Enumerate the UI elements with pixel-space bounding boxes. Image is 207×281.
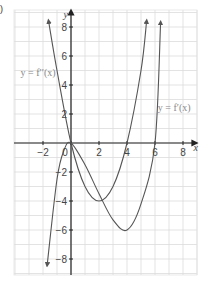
x-tick-label: 2 [96,147,102,158]
part-label: ) [0,4,3,14]
x-tick-label: 8 [180,147,186,158]
y-tick-label: −4 [56,196,68,207]
y-tick-label: −6 [56,225,68,236]
y-tick-label: 6 [61,51,67,62]
x-tick-label: 6 [152,147,158,158]
y-tick-label: 8 [61,22,67,33]
x-axis-label: x [193,142,199,153]
x-tick-label: 0 [62,147,68,158]
axes [14,12,195,275]
x-tick-label: 4 [124,147,130,158]
x-tick-label: −2 [37,147,49,158]
y-tick-label: 4 [61,80,67,91]
chart: −2024688642−2−4−6−8xy)y = f′′(x)y = f′(x… [0,0,207,281]
second-derivative-label: y = f′′(x) [21,67,56,79]
y-tick-label: −8 [56,254,68,265]
y-tick-label: 2 [61,109,67,120]
y-axis-label: y [63,9,69,20]
y-tick-label: −2 [56,167,68,178]
first-derivative-label: y = f′(x) [158,102,191,114]
